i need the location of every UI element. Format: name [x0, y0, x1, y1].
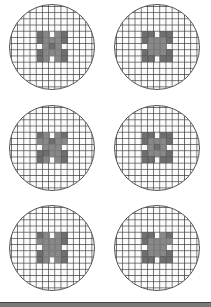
- grid-dish-3: [9, 105, 95, 191]
- grid-dish-2: [114, 4, 200, 90]
- grid-dish-5: [9, 205, 95, 291]
- filled-cluster: [37, 31, 68, 62]
- grid-dish-6: [114, 205, 200, 291]
- bottom-bar: [0, 302, 211, 307]
- filled-cluster: [37, 232, 68, 263]
- grid-dish-1: [9, 4, 95, 90]
- filled-cluster: [142, 31, 173, 62]
- grid-dish-4: [114, 105, 200, 191]
- filled-cluster: [142, 132, 173, 163]
- filled-cluster: [142, 232, 173, 263]
- filled-cluster: [37, 132, 68, 163]
